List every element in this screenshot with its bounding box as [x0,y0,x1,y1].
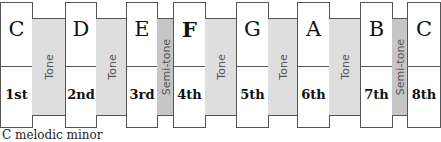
divider [66,66,96,67]
note-degree: 7th [361,87,392,102]
note-degree: 5th [237,87,268,102]
note-d: D 2nd [65,2,97,128]
note-letter: G [237,17,268,41]
note-letter: F [174,17,205,42]
divider [174,66,205,67]
interval-tone-4: Tone [268,18,298,116]
interval-tone-2: Tone [96,18,127,116]
interval-tone-3: Tone [205,18,237,116]
note-letter: C [408,17,440,41]
note-g: G 5th [236,2,269,128]
divider [127,66,157,67]
note-c-8: C 8th [407,2,441,128]
interval-label: Tone [43,54,56,79]
interval-label: Semi-tone [159,39,172,95]
interval-tone-5: Tone [329,18,361,116]
divider [237,66,268,67]
interval-tone-1: Tone [32,18,66,116]
note-degree: 8th [408,87,440,102]
note-c-1: C 1st [0,2,33,128]
interval-label: Tone [277,54,290,79]
note-letter: E [127,17,157,41]
note-letter: D [66,17,96,41]
note-letter: B [361,17,392,41]
caption: C melodic minor [2,128,103,142]
note-degree: 3rd [127,87,157,102]
interval-semitone-2: Semi-tone [392,18,408,116]
interval-label: Semi-tone [394,39,407,95]
note-degree: 2nd [66,87,96,102]
note-degree: 6th [298,87,329,102]
note-a: A 6th [297,2,330,128]
note-letter: C [1,17,32,41]
interval-label: Tone [215,54,228,79]
interval-semitone-1: Semi-tone [157,18,174,116]
note-degree: 4th [174,87,205,102]
divider [298,66,329,67]
note-f: F 4th [173,2,206,128]
note-b: B 7th [360,2,393,128]
divider [408,66,440,67]
note-degree: 1st [1,87,32,102]
interval-label: Tone [339,54,352,79]
divider [361,66,392,67]
divider [1,66,32,67]
note-e: E 3rd [126,2,158,128]
note-letter: A [298,17,329,41]
interval-label: Tone [105,54,118,79]
